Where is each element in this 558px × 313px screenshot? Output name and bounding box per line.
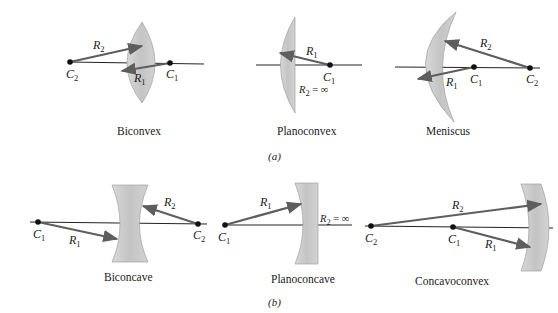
c1-label: C1 [166,67,178,83]
c2-point [67,59,73,65]
r1-arrow [38,222,117,239]
r2-label: R2 [92,38,105,54]
c1-point [35,219,41,225]
c1-label: C1 [448,232,460,248]
optical-axis [30,222,207,224]
c2-point [195,221,201,227]
meniscus-lens-diagram: R2 R1 C1 C2 Meniscus [395,12,540,137]
c2-label: C2 [526,72,538,88]
r1-label: R1 [445,75,458,91]
c2-point [527,65,533,71]
r1-label: R1 [484,237,497,253]
part-a-label: (a) [268,150,281,163]
biconcave-lens-diagram: R2 R1 C1 C2 Biconcave [30,185,207,283]
planoconcave-lens-diagram: R1 C1 R2 = ∞ Planoconcave [218,183,352,285]
c1-point [450,224,456,230]
r2-label: R2 [451,198,464,214]
r1-label: R1 [259,195,272,211]
planoconcave-lens [295,183,318,264]
c2-point [368,223,374,229]
c1-point [327,62,333,68]
r1-label: R1 [305,44,318,60]
planoconvex-lens [281,17,296,113]
lens-types-diagram: R2 R1 C2 C1 Biconvex R1 C1 R2 = ∞ Planoc… [0,0,558,313]
c2-label: C2 [66,67,78,83]
r2-label: R2 [163,195,176,211]
part-b-label: (b) [268,296,281,309]
c1-label: C1 [470,72,482,88]
r1-label: R1 [68,233,81,249]
c2-label: C2 [193,228,205,244]
c2-label: C2 [365,231,377,247]
c1-point [167,60,173,66]
planoconvex-lens-diagram: R1 C1 R2 = ∞ Planoconvex [256,17,362,137]
c1-point [222,222,228,228]
caption-biconcave: Biconcave [104,271,153,283]
concavoconvex-lens-diagram: R2 R1 C2 C1 Concavoconvex [365,184,553,287]
c1-point [471,64,477,70]
caption-meniscus: Meniscus [426,125,471,137]
r2-label: R2 [479,36,492,52]
c1-label: C1 [218,230,230,246]
caption-planoconcave: Planoconcave [271,273,335,285]
r2-infinity-label: R2 = ∞ [298,84,328,98]
biconvex-lens [127,22,155,103]
caption-concavoconvex: Concavoconvex [415,275,489,287]
caption-planoconvex: Planoconvex [277,125,337,137]
c1-label: C1 [33,227,45,243]
caption-biconvex: Biconvex [117,125,161,137]
biconvex-lens-diagram: R2 R1 C2 C1 Biconvex [66,22,204,137]
